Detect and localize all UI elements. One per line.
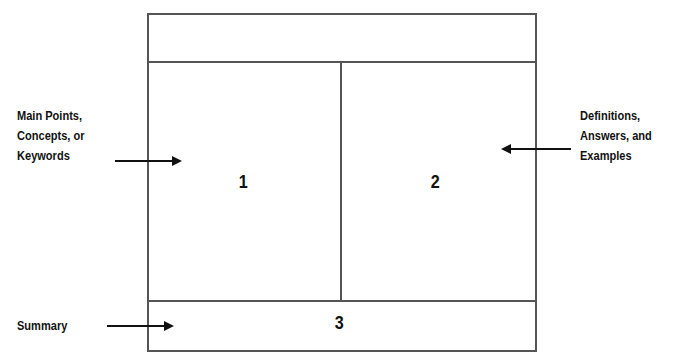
section-1-number: 1 [239, 171, 248, 193]
notes-label-line-1: Definitions, [580, 106, 652, 126]
section-2-number: 2 [431, 171, 440, 193]
header-divider [147, 61, 537, 63]
cue-column-label: Main Points, Concepts, or Keywords [17, 106, 85, 166]
cue-label-line-1: Main Points, [17, 106, 85, 126]
notes-label-line-2: Answers, and [580, 126, 652, 146]
notes-column-label: Definitions, Answers, and Examples [580, 106, 652, 166]
column-divider [340, 61, 342, 302]
arrow-left-icon [503, 148, 571, 150]
summary-label: Summary [17, 316, 67, 336]
summary-divider [147, 300, 537, 302]
cue-label-line-2: Concepts, or [17, 126, 85, 146]
section-3-number: 3 [335, 312, 344, 334]
notes-label-line-3: Examples [580, 146, 652, 166]
arrow-right-icon [115, 160, 180, 162]
cue-label-line-3: Keywords [17, 146, 85, 166]
arrow-right-icon [107, 325, 172, 327]
